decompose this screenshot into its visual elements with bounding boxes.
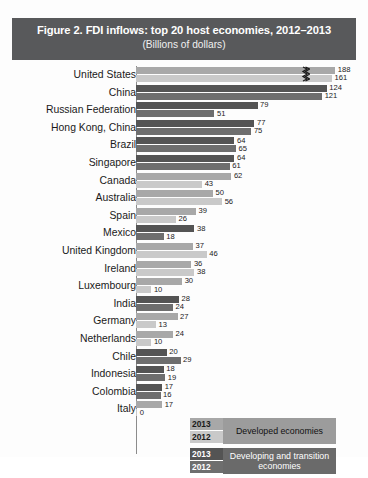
bar-pair: 2410 xyxy=(136,330,368,348)
bar-value-2012: 29 xyxy=(183,356,191,363)
bar-2013 xyxy=(136,120,254,127)
bar-2013 xyxy=(136,208,196,215)
bar-row: Germany2713 xyxy=(0,312,368,330)
bar-value-2013: 79 xyxy=(260,101,268,108)
bar-2013 xyxy=(136,155,234,162)
bar-2012 xyxy=(136,128,251,135)
bar-value-2012: 10 xyxy=(154,286,162,293)
bar-value-2013: 124 xyxy=(329,84,342,91)
category-label: Canada xyxy=(100,173,136,189)
axis-break-icon xyxy=(301,66,310,82)
bar-value-2012: 56 xyxy=(225,198,233,205)
legend-label-developed: Developed economies xyxy=(223,418,336,444)
bar-2012 xyxy=(136,409,137,416)
figure-title: Figure 2. FDI inflows: top 20 host econo… xyxy=(12,23,356,37)
bar-value-2013: 39 xyxy=(199,207,207,214)
bar-row: Chile2029 xyxy=(0,348,368,366)
bar-2013 xyxy=(136,296,179,303)
bar-value-2013: 38 xyxy=(197,225,205,232)
bar-value-2012: 16 xyxy=(163,391,171,398)
bar-value-2012: 46 xyxy=(209,250,217,257)
bar-2012 xyxy=(136,233,164,240)
bar-2012 xyxy=(136,145,236,152)
bar-row: Mexico3818 xyxy=(0,224,368,242)
bar-value-2013: 27 xyxy=(180,313,188,320)
bar-pair: 7951 xyxy=(136,101,368,119)
category-label: Colombia xyxy=(92,384,136,400)
category-label: Brazil xyxy=(110,137,136,153)
chart-plot-area: United States188161China124121Russian Fe… xyxy=(0,66,368,454)
bar-row: Australia5056 xyxy=(0,189,368,207)
bar-2012 xyxy=(136,374,165,381)
bar-row: Italy170 xyxy=(0,400,368,418)
bar-row: Luxembourg3010 xyxy=(0,277,368,295)
bar-pair: 1819 xyxy=(136,365,368,383)
category-label: Spain xyxy=(109,208,136,224)
bar-2013 xyxy=(136,349,167,356)
bar-value-2013: 20 xyxy=(169,348,177,355)
bar-2012 xyxy=(136,181,202,188)
legend-swatch-developed-2012: 2012 xyxy=(190,431,223,443)
bar-value-2013: 64 xyxy=(237,137,245,144)
bar-row: Singapore6461 xyxy=(0,154,368,172)
category-label: Chile xyxy=(112,349,136,365)
bar-2012 xyxy=(136,304,173,311)
bar-2012 xyxy=(136,163,230,170)
category-label: Netherlands xyxy=(80,331,136,347)
bar-row: Brazil6465 xyxy=(0,136,368,154)
bar-row: Canada6243 xyxy=(0,172,368,190)
bar-value-2012: 75 xyxy=(254,127,262,134)
bar-value-2013: 28 xyxy=(182,295,190,302)
bar-pair: 170 xyxy=(136,400,368,418)
bar-2013 xyxy=(136,173,231,180)
bar-2013 xyxy=(136,190,213,197)
bar-row: Russian Federation7951 xyxy=(0,101,368,119)
bar-pair: 7775 xyxy=(136,119,368,137)
legend-item-developed: 2013 2012 Developed economies xyxy=(190,418,336,444)
bar-value-2013: 64 xyxy=(237,154,245,161)
category-label: Australia xyxy=(96,190,136,206)
bar-pair: 6461 xyxy=(136,154,368,172)
bar-pair: 3818 xyxy=(136,224,368,242)
bar-2012 xyxy=(136,339,151,346)
bar-pair: 2713 xyxy=(136,312,368,330)
bar-pair: 1716 xyxy=(136,383,368,401)
bar-pair: 2824 xyxy=(136,295,368,313)
category-label: China xyxy=(109,85,136,101)
category-label: United States xyxy=(74,67,136,83)
bar-value-2012: 0 xyxy=(140,409,144,416)
bar-value-2013: 18 xyxy=(166,365,174,372)
category-label: Indonesia xyxy=(91,366,136,382)
bar-value-2013: 188 xyxy=(338,66,351,73)
category-label: Singapore xyxy=(89,155,136,171)
category-label: India xyxy=(113,296,136,312)
bar-2012 xyxy=(136,286,151,293)
bar-value-2013: 17 xyxy=(165,383,173,390)
category-label: Ireland xyxy=(104,261,136,277)
bar-pair: 3638 xyxy=(136,260,368,278)
bar-2012 xyxy=(136,93,322,100)
bar-row: United States188161 xyxy=(0,66,368,84)
bar-row: Netherlands2410 xyxy=(0,330,368,348)
bar-row: Colombia1716 xyxy=(0,383,368,401)
legend-swatch-developing-2013: 2013 xyxy=(190,448,223,460)
bar-row: Hong Kong, China7775 xyxy=(0,119,368,137)
bar-row: Indonesia1819 xyxy=(0,365,368,383)
bar-value-2012: 26 xyxy=(179,215,187,222)
category-label: Hong Kong, China xyxy=(51,120,136,136)
category-label: Italy xyxy=(117,401,136,417)
bar-2013 xyxy=(136,366,164,373)
category-label: Germany xyxy=(93,313,136,329)
bar-pair: 3010 xyxy=(136,277,368,295)
category-label: Luxembourg xyxy=(78,278,136,294)
bar-pair: 5056 xyxy=(136,189,368,207)
bar-value-2013: 50 xyxy=(215,189,223,196)
bar-row: United Kingdom3746 xyxy=(0,242,368,260)
bar-value-2013: 30 xyxy=(185,277,193,284)
bar-pair: 188161 xyxy=(136,66,368,84)
figure-title-band: Figure 2. FDI inflows: top 20 host econo… xyxy=(12,18,356,60)
bar-pair: 3926 xyxy=(136,207,368,225)
bar-2012 xyxy=(136,357,181,364)
legend-swatch-developed-2013: 2013 xyxy=(190,418,223,430)
